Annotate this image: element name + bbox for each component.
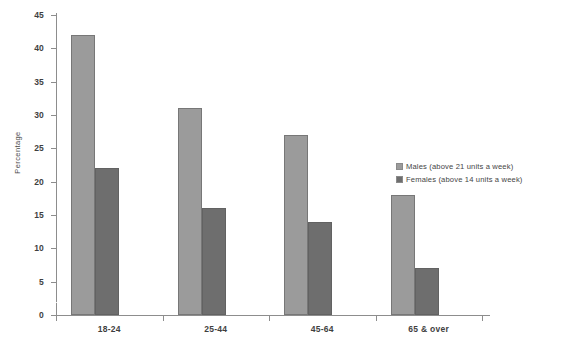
x-axis-tick [376, 315, 377, 321]
y-axis-tick-label: 40 [0, 44, 44, 52]
x-axis-tick [269, 315, 270, 321]
bar-males-65over [391, 195, 415, 315]
legend-label: Females (above 14 units a week) [406, 173, 523, 186]
x-axis-tick [56, 315, 57, 321]
legend-item-females: Females (above 14 units a week) [396, 173, 523, 186]
legend-swatch-females-icon [396, 176, 403, 183]
y-axis-tick-label: 45 [0, 11, 44, 19]
y-axis-tick-label: 25 [0, 144, 44, 152]
y-axis-tick-label: 30 [0, 111, 44, 119]
bar-group [71, 15, 119, 315]
bar-group [178, 15, 226, 315]
bar-chart: Percentage 051015202530354045 18-2425-44… [0, 0, 568, 356]
chart-legend: Males (above 21 units a week)Females (ab… [396, 160, 523, 186]
bar-females-25-44 [202, 208, 226, 315]
bar-group [284, 15, 332, 315]
bar-females-45-64 [308, 222, 332, 315]
x-axis-label-45-64: 45-64 [269, 324, 376, 334]
x-axis-label-25-44: 25-44 [163, 324, 270, 334]
x-axis-tick [163, 315, 164, 321]
x-axis-tick [482, 315, 483, 321]
bar-males-18-24 [71, 35, 95, 315]
y-axis-tick-label: 35 [0, 78, 44, 86]
x-axis-label-18-24: 18-24 [56, 324, 163, 334]
y-axis-tick-label: 0 [0, 311, 44, 319]
y-axis-tick-label: 20 [0, 178, 44, 186]
bar-females-18-24 [95, 168, 119, 315]
y-axis-tick-label: 5 [0, 278, 44, 286]
bar-males-25-44 [178, 108, 202, 315]
bar-males-45-64 [284, 135, 308, 315]
legend-label: Males (above 21 units a week) [406, 160, 513, 173]
y-axis-tick-label: 15 [0, 211, 44, 219]
y-axis-tick-label: 10 [0, 244, 44, 252]
bar-females-65over [415, 268, 439, 315]
legend-item-males: Males (above 21 units a week) [396, 160, 523, 173]
x-axis-label-65over: 65 & over [376, 324, 483, 334]
legend-swatch-males-icon [396, 163, 403, 170]
x-axis-line [56, 315, 490, 316]
